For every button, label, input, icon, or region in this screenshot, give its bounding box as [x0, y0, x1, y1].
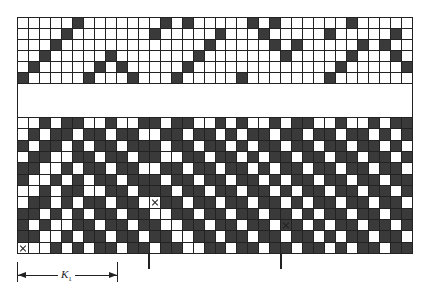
- dimension-end-line: [117, 262, 118, 282]
- grid-cell: [84, 73, 94, 83]
- grid-cell: [95, 129, 105, 139]
- grid-cell: [40, 129, 50, 139]
- grid-cell: [29, 73, 39, 83]
- grid-cell: [259, 152, 269, 162]
- grid-cell: [172, 51, 182, 61]
- grid-cell: [95, 29, 105, 39]
- grid-cell: [292, 51, 302, 61]
- grid-cell: [84, 163, 94, 173]
- grid-cell: [281, 175, 291, 185]
- grid-cell: [336, 141, 346, 151]
- grid-cell: [150, 51, 160, 61]
- grid-cell: [161, 29, 171, 39]
- grid-cell: [303, 40, 313, 50]
- grid-cell: [402, 129, 412, 139]
- grid-cell: [259, 29, 269, 39]
- grid-cell: [347, 51, 357, 61]
- grid-cell: [380, 141, 390, 151]
- grid-cell: [84, 40, 94, 50]
- grid-cell: [62, 209, 72, 219]
- grid-cell: [380, 51, 390, 61]
- grid-cell: [73, 152, 83, 162]
- grid-cell: [95, 152, 105, 162]
- grid-cell: [117, 220, 127, 230]
- grid-cell: [172, 62, 182, 72]
- grid-cell: [51, 209, 61, 219]
- grid-cell: [402, 243, 412, 253]
- grid-cell: [40, 18, 50, 28]
- grid-cell: [183, 129, 193, 139]
- grid-cell: [292, 129, 302, 139]
- grid-cell: [29, 118, 39, 128]
- grid-cell: [51, 152, 61, 162]
- grid-cell: [226, 231, 236, 241]
- grid-cell: [369, 51, 379, 61]
- grid-cell: [314, 40, 324, 50]
- grid-cell: [281, 163, 291, 173]
- grid-cell: [40, 186, 50, 196]
- grid-cell: [216, 18, 226, 28]
- grid-cell: [380, 29, 390, 39]
- grid-cell: [347, 40, 357, 50]
- grid-cell: [216, 186, 226, 196]
- grid-cell: [205, 231, 215, 241]
- marked-cell: [18, 243, 28, 253]
- grid-cell: [380, 129, 390, 139]
- grid-cell: [161, 18, 171, 28]
- grid-cell: [336, 220, 346, 230]
- grid-cell: [172, 152, 182, 162]
- grid-cell: [303, 141, 313, 151]
- grid-cell: [40, 73, 50, 83]
- separator-band: [17, 84, 413, 117]
- grid-cell: [292, 29, 302, 39]
- grid-cell: [106, 220, 116, 230]
- grid-cell: [358, 62, 368, 72]
- grid-cell: [270, 163, 280, 173]
- grid-cell: [117, 243, 127, 253]
- grid-cell: [29, 209, 39, 219]
- grid-cell: [73, 197, 83, 207]
- grid-cell: [95, 40, 105, 50]
- grid-cell: [216, 152, 226, 162]
- grid-cell: [117, 29, 127, 39]
- grid-cell: [128, 209, 138, 219]
- grid-cell: [51, 118, 61, 128]
- grid-cell: [51, 231, 61, 241]
- dimension-label: K1: [58, 268, 75, 283]
- grid-cell: [117, 163, 127, 173]
- grid-cell: [281, 118, 291, 128]
- grid-cell: [205, 129, 215, 139]
- grid-cell: [358, 29, 368, 39]
- grid-cell: [73, 141, 83, 151]
- grid-cell: [248, 73, 258, 83]
- grid-cell: [270, 231, 280, 241]
- grid-cell: [95, 220, 105, 230]
- grid-cell: [62, 73, 72, 83]
- grid-cell: [128, 40, 138, 50]
- grid-cell: [51, 129, 61, 139]
- grid-cell: [139, 62, 149, 72]
- grid-cell: [205, 18, 215, 28]
- grid-cell: [117, 141, 127, 151]
- grid-cell: [128, 220, 138, 230]
- grid-cell: [161, 175, 171, 185]
- grid-cell: [226, 129, 236, 139]
- grid-cell: [139, 163, 149, 173]
- grid-cell: [270, 220, 280, 230]
- grid-cell: [205, 152, 215, 162]
- grid-cell: [325, 62, 335, 72]
- grid-cell: [194, 141, 204, 151]
- grid-cell: [347, 118, 357, 128]
- grid-cell: [205, 40, 215, 50]
- grid-cell: [40, 175, 50, 185]
- grid-cell: [40, 163, 50, 173]
- grid-cell: [380, 186, 390, 196]
- grid-cell: [40, 118, 50, 128]
- grid-cell: [325, 175, 335, 185]
- grid-cell: [226, 186, 236, 196]
- grid-cell: [84, 62, 94, 72]
- grid-cell: [29, 129, 39, 139]
- grid-cell: [183, 62, 193, 72]
- grid-cell: [237, 163, 247, 173]
- grid-cell: [248, 51, 258, 61]
